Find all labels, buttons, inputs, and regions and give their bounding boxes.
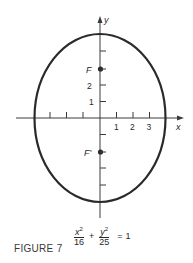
focus-upper-label: F <box>86 65 92 75</box>
y-tick-label-1: 1 <box>89 97 94 107</box>
ellipse-equation: x2 16 + y2 25 = 1 <box>72 225 131 247</box>
y-denominator: 25 <box>99 238 109 247</box>
x-denominator: 16 <box>74 238 84 247</box>
x-tick-label-2: 2 <box>130 122 135 132</box>
y-axis-arrow-icon <box>98 16 103 23</box>
focus-lower-label: F' <box>84 148 91 158</box>
x-tick-label-3: 3 <box>147 122 152 132</box>
ellipse-diagram: y x 1 2 3 1 2 F F' <box>0 0 193 263</box>
equation-rhs: 1 <box>126 231 131 241</box>
equation-term-x: x2 16 <box>74 225 84 247</box>
x-axis-arrow-icon <box>177 116 184 121</box>
y-axis-label: y <box>103 15 109 25</box>
y-tick-label-2: 2 <box>87 81 92 91</box>
plus-sign: + <box>89 231 94 241</box>
x-tick-label-1: 1 <box>114 122 119 132</box>
figure-caption: FIGURE 7 <box>14 243 63 254</box>
x-axis-label: x <box>175 122 181 132</box>
x-exponent: 2 <box>80 226 83 232</box>
equation-term-y: y2 25 <box>99 225 109 247</box>
equals-sign: = <box>117 231 122 241</box>
y-exponent: 2 <box>105 226 108 232</box>
